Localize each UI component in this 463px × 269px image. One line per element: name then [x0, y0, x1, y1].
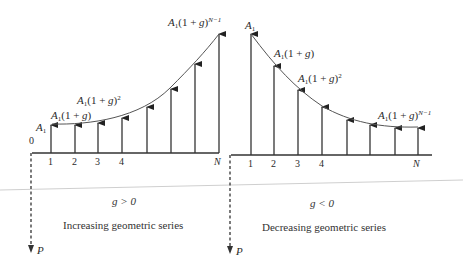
tick-4-left: 4 [119, 157, 124, 167]
label-A1-1g-right: A1(1 + g) [274, 48, 314, 61]
origin-label: 0 [29, 136, 34, 146]
tick-N-left: N [214, 157, 221, 167]
tick-4-right: 4 [319, 159, 324, 169]
p-label-left: P [37, 245, 44, 256]
tick-2-left: 2 [72, 157, 77, 167]
tick-1-right: 1 [248, 159, 253, 169]
tick-2-right: 2 [271, 159, 276, 169]
scan-line [0, 180, 463, 190]
condition-right: g < 0 [310, 198, 334, 209]
tick-3-left: 3 [95, 157, 100, 167]
tick-3-right: 3 [295, 159, 300, 169]
label-A1-1gN-right: A1(1 + g)N−1 [378, 110, 431, 123]
label-A1-1g2-left: A1(1 + g)2 [77, 95, 121, 108]
label-A1-1g-left: A1(1 + g) [51, 110, 91, 123]
tick-N-right: N [413, 159, 420, 169]
label-A1-right: A1 [245, 20, 255, 33]
label-A1-1gN-left: A1(1 + g)N−1 [168, 17, 221, 30]
caption-right: Decreasing geometric series [262, 222, 386, 233]
label-A1-1g2-right: A1(1 + g)2 [298, 73, 342, 86]
tick-1-left: 1 [48, 157, 53, 167]
caption-left: Increasing geometric series [63, 220, 183, 231]
p-label-right: P [236, 246, 243, 257]
condition-left: g > 0 [112, 196, 136, 207]
label-A1-left: A1 [36, 122, 46, 135]
